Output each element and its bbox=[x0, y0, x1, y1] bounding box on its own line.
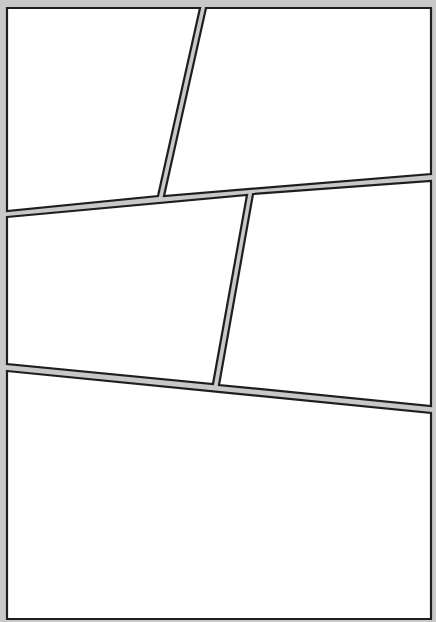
panel-2[interactable] bbox=[164, 8, 431, 196]
panel-5[interactable] bbox=[7, 371, 431, 619]
comic-page bbox=[0, 0, 436, 622]
panel-3[interactable] bbox=[7, 195, 247, 384]
panel-4[interactable] bbox=[219, 181, 431, 406]
